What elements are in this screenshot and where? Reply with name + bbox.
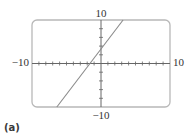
x-min-label: −10 xyxy=(12,56,30,68)
graph-figure: 10 −10 −10 10 xyxy=(0,0,188,139)
y-min-label: −10 xyxy=(92,109,110,121)
figure-caption: (a) xyxy=(4,122,20,133)
x-max-label: 10 xyxy=(173,56,185,68)
y-max-label: 10 xyxy=(96,7,108,19)
